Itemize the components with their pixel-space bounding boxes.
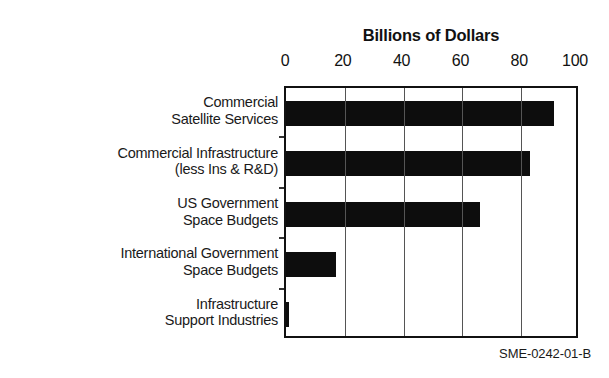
category-label-1: Commercial Infrastructure(less Ins & R&D… xyxy=(10,145,278,178)
x-tick-label-20: 20 xyxy=(334,52,351,70)
x-tick-label-0: 0 xyxy=(281,52,290,70)
category-label-line: Space Budgets xyxy=(10,212,278,229)
x-tick-label-60: 60 xyxy=(452,52,469,70)
category-label-line: (less Ins & R&D) xyxy=(10,161,278,178)
x-tick-label-40: 40 xyxy=(393,52,410,70)
category-axis-labels: CommercialSatellite ServicesCommercial I… xyxy=(10,86,278,338)
category-label-line: Commercial Infrastructure xyxy=(10,145,278,162)
x-tick-label-80: 80 xyxy=(511,52,528,70)
plot-area xyxy=(284,86,578,338)
x-axis-tick-labels: 020406080100 xyxy=(284,52,578,74)
category-label-3: International GovernmentSpace Budgets xyxy=(10,245,278,278)
category-label-line: Commercial xyxy=(10,94,278,111)
bar-1 xyxy=(286,151,530,176)
bar-2 xyxy=(286,202,480,227)
plot-inner xyxy=(286,88,576,336)
category-label-line: US Government xyxy=(10,195,278,212)
gridline-80 xyxy=(521,88,522,336)
category-label-line: Space Budgets xyxy=(10,262,278,279)
category-label-4: InfrastructureSupport Industries xyxy=(10,296,278,329)
category-label-0: CommercialSatellite Services xyxy=(10,94,278,127)
bar-3 xyxy=(286,252,336,277)
bar-4 xyxy=(286,302,289,327)
category-label-line: Infrastructure xyxy=(10,296,278,313)
category-label-2: US GovernmentSpace Budgets xyxy=(10,195,278,228)
x-tick-label-100: 100 xyxy=(562,52,588,70)
category-label-line: International Government xyxy=(10,245,278,262)
category-label-line: Support Industries xyxy=(10,312,278,329)
gridline-40 xyxy=(404,88,405,336)
chart-title: Billions of Dollars xyxy=(284,26,578,45)
bar-0 xyxy=(286,101,554,126)
gridline-60 xyxy=(462,88,463,336)
bar-chart-figure: Billions of Dollars 020406080100 Commerc… xyxy=(0,0,609,378)
category-label-line: Satellite Services xyxy=(10,111,278,128)
figure-code: SME-0242-01-B xyxy=(499,346,591,361)
gridline-20 xyxy=(345,88,346,336)
